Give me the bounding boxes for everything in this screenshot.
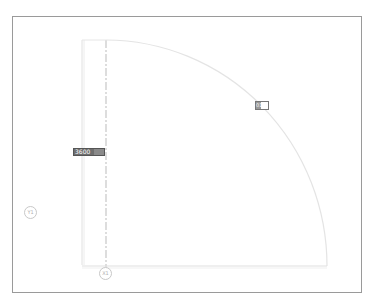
drawing-canvas bbox=[0, 0, 373, 306]
grid-bubble-y[interactable]: Y1 bbox=[24, 206, 37, 219]
quarter-arc bbox=[106, 40, 327, 266]
grid-bubble-y-label: Y1 bbox=[27, 209, 33, 215]
dimension-tag-extension bbox=[94, 149, 104, 155]
element-tag-label: 01 bbox=[256, 101, 262, 109]
dimension-tag[interactable]: 3600 bbox=[73, 148, 105, 156]
element-tag[interactable]: 01 bbox=[255, 101, 269, 110]
grid-bubble-x-label: X1 bbox=[102, 270, 109, 276]
dimension-tag-label: 3600 bbox=[75, 148, 90, 156]
grid-bubble-x[interactable]: X1 bbox=[99, 267, 112, 280]
